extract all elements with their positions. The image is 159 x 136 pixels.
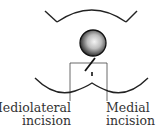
- perineum-curve: [35, 78, 148, 93]
- fetal-head: [80, 30, 106, 56]
- label-line: incision: [106, 114, 155, 127]
- mediolateral-cut: [85, 58, 95, 71]
- upper-arc: [45, 10, 137, 22]
- medial-incision-label: Medial incision: [106, 101, 155, 127]
- mediolateral-incision-label: Mediolateral incision: [0, 101, 71, 127]
- incision-box: [70, 63, 107, 101]
- label-line: incision: [0, 114, 71, 127]
